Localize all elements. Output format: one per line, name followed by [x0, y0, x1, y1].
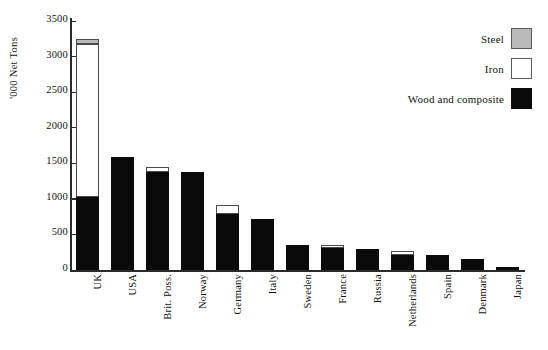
legend-item: Steel	[481, 28, 532, 49]
x-axis-label: Germany	[232, 274, 243, 314]
bar-sweden	[286, 245, 309, 270]
bar-segment-wood	[391, 255, 414, 270]
y-axis-title: '000 Net Tons	[8, 71, 19, 85]
x-axis-label: Brit. Poss.	[162, 274, 173, 320]
y-tick-label: 500	[52, 226, 68, 237]
x-axis-label: Japan	[512, 274, 523, 299]
bar-uk	[76, 39, 99, 270]
bar-segment-iron	[76, 44, 99, 197]
bar-germany	[216, 205, 239, 270]
bar-russia	[356, 249, 379, 270]
y-tick-label: 2000	[46, 120, 68, 131]
y-tick-label: 2500	[46, 84, 68, 95]
legend-item: Iron	[485, 58, 532, 79]
bar-segment-iron	[216, 205, 239, 214]
bar-segment-iron	[146, 167, 169, 172]
wood-swatch	[511, 88, 532, 109]
x-axis-label: Spain	[442, 274, 453, 299]
bar-segment-wood	[251, 219, 274, 270]
bar-segment-wood	[216, 214, 239, 270]
bar-segment-wood	[76, 197, 99, 270]
bar-segment-wood	[181, 172, 204, 270]
x-axis-label: Sweden	[302, 274, 313, 308]
legend-item: Wood and composite	[408, 88, 532, 109]
bar-segment-iron	[321, 245, 344, 248]
x-axis-label: Russia	[372, 274, 383, 303]
bar-segment-iron	[391, 251, 414, 255]
bar-italy	[251, 219, 274, 270]
y-tick-label: 1000	[46, 191, 68, 202]
bar-segment-wood	[146, 172, 169, 270]
legend-label: Steel	[481, 33, 504, 45]
stacked-bar-chart: '000 Net Tons 05001000150020002500300035…	[0, 0, 548, 350]
x-axis-label: Norway	[197, 274, 208, 309]
x-axis-label: Netherlands	[407, 274, 418, 327]
bar-segment-wood	[461, 259, 484, 270]
bar-france	[321, 245, 344, 270]
steel-swatch	[511, 28, 532, 49]
x-axis-label: USA	[127, 274, 138, 296]
x-axis-label: UK	[92, 274, 103, 290]
bar-segment-wood	[426, 255, 449, 270]
bar-spain	[426, 255, 449, 270]
bar-usa	[111, 157, 134, 270]
bar-brit-poss	[146, 167, 169, 270]
bar-segment-wood	[496, 267, 519, 270]
y-tick-label: 3000	[46, 49, 68, 60]
legend-label: Wood and composite	[408, 93, 504, 105]
x-axis-label: France	[337, 274, 348, 304]
bar-netherlands	[391, 251, 414, 270]
bar-japan	[496, 267, 519, 270]
y-tick-label: 3500	[46, 13, 68, 24]
legend-label: Iron	[485, 63, 504, 75]
bar-segment-wood	[111, 157, 134, 270]
y-tick-label: 0	[63, 262, 68, 273]
x-axis-label: Denmark	[477, 274, 488, 314]
bar-segment-wood	[321, 248, 344, 270]
bar-segment-steel	[76, 39, 99, 44]
iron-swatch	[511, 58, 532, 79]
y-tick-label: 1500	[46, 155, 68, 166]
bar-denmark	[461, 259, 484, 270]
bar-segment-wood	[356, 249, 379, 270]
y-tick-mark	[70, 21, 76, 22]
x-axis-line	[70, 270, 525, 272]
bar-segment-wood	[286, 245, 309, 270]
bar-norway	[181, 172, 204, 270]
x-axis-label: Italy	[267, 274, 278, 294]
